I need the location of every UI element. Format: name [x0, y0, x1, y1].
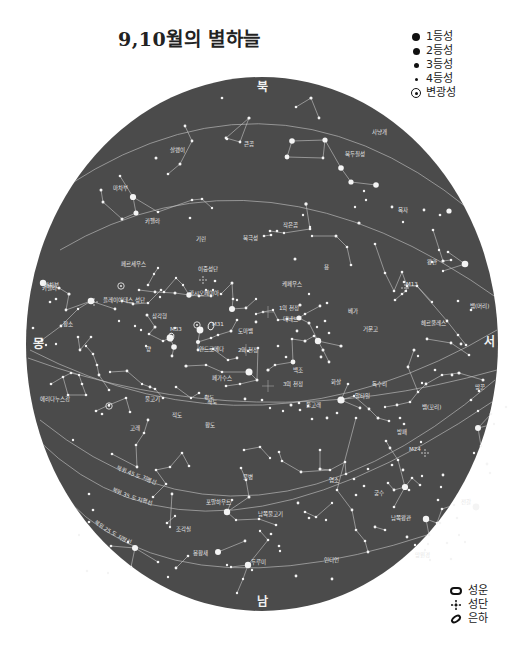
- star: [101, 413, 104, 416]
- star: [270, 234, 273, 237]
- star: [231, 282, 234, 285]
- star: [224, 509, 230, 515]
- legend-label: 성단: [468, 598, 488, 612]
- star: [298, 402, 301, 405]
- star: [363, 485, 366, 488]
- star: [457, 371, 460, 374]
- constellation-label: 뱀(머리): [470, 302, 489, 310]
- star: [269, 230, 272, 233]
- star: [157, 267, 159, 269]
- star: [152, 496, 155, 499]
- star: [88, 521, 91, 524]
- constellation-label: 황도: [205, 421, 215, 428]
- star: [336, 489, 339, 492]
- sky-disc: [26, 77, 498, 611]
- star: [267, 539, 270, 542]
- star: [331, 502, 333, 504]
- star: [149, 386, 152, 389]
- star: [493, 423, 495, 425]
- star: [146, 314, 149, 317]
- star: [155, 157, 158, 160]
- star: [114, 308, 117, 311]
- star: [243, 449, 246, 452]
- star: [95, 410, 98, 413]
- star: [391, 206, 394, 209]
- star: [49, 301, 52, 304]
- star: [154, 388, 157, 391]
- star: [409, 401, 412, 404]
- star: [154, 291, 157, 294]
- star: [138, 289, 141, 292]
- star: [374, 526, 377, 529]
- star: [320, 356, 323, 359]
- star: [440, 486, 442, 488]
- star: [304, 202, 307, 205]
- star: [313, 335, 316, 338]
- star: [401, 293, 404, 296]
- star: [335, 235, 338, 238]
- star: [354, 206, 356, 208]
- star: [344, 461, 347, 464]
- star: [421, 475, 423, 477]
- star: [88, 298, 95, 305]
- star: [450, 342, 453, 345]
- star-chart: 적도황도북위 45 도 지평선북위 35 도 지평선북위 25 도 지평선 북두…: [0, 0, 523, 646]
- star: [359, 407, 362, 410]
- star: [169, 526, 171, 528]
- star: [316, 326, 318, 328]
- star: [431, 301, 433, 303]
- star: [162, 340, 165, 343]
- star: [245, 307, 248, 310]
- star: [227, 359, 230, 362]
- star: [337, 396, 344, 403]
- star: [119, 175, 122, 178]
- star: [338, 165, 344, 171]
- star: [434, 369, 437, 372]
- star: [296, 330, 299, 333]
- star: [294, 258, 297, 261]
- star: [32, 327, 35, 330]
- star: [72, 439, 74, 441]
- star: [175, 567, 178, 570]
- galaxy-icon: [449, 614, 463, 624]
- star: [477, 410, 479, 412]
- star: [88, 493, 91, 496]
- star: [277, 319, 280, 322]
- constellation-label: 땅꾼: [475, 384, 485, 390]
- star: [255, 321, 258, 324]
- star: [328, 332, 331, 335]
- star: [171, 344, 177, 350]
- star: [458, 534, 460, 536]
- star: [184, 364, 187, 367]
- star: [470, 399, 473, 402]
- star: [174, 515, 176, 517]
- star: [125, 397, 128, 400]
- star: [190, 397, 192, 399]
- constellation-label: 뱀(꼬리): [422, 403, 441, 411]
- star: [50, 383, 53, 386]
- star: [165, 483, 168, 486]
- star: [98, 374, 101, 377]
- star: [406, 536, 409, 539]
- star: [229, 306, 235, 312]
- star: [281, 460, 284, 463]
- star: [325, 519, 327, 521]
- star: [189, 217, 192, 220]
- star: [163, 291, 166, 294]
- star: [308, 517, 311, 520]
- star: [318, 117, 321, 120]
- star: [248, 496, 251, 499]
- star: [236, 357, 239, 360]
- star: [473, 504, 480, 511]
- constellation-label: 플레이아데스 성단: [103, 296, 145, 304]
- star: [328, 361, 331, 364]
- star: [92, 353, 95, 356]
- star: [121, 218, 124, 221]
- star: [272, 309, 274, 311]
- star: [188, 465, 191, 468]
- star: [78, 534, 80, 536]
- star: [266, 368, 269, 371]
- constellation-label: M24: [409, 446, 421, 452]
- star: [109, 371, 111, 373]
- star: [263, 235, 266, 238]
